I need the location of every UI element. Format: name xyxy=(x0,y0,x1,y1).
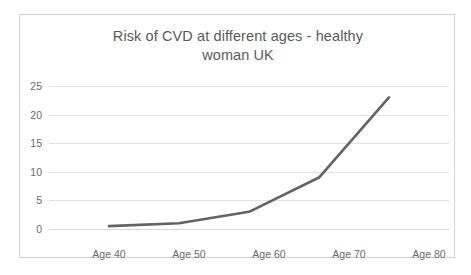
x-axis-tick-label: Age 50 xyxy=(172,248,205,260)
x-axis-tick-label: Age 70 xyxy=(332,248,365,260)
chart-title-line-2: woman UK xyxy=(202,47,274,63)
gridline-0: 0 xyxy=(49,229,449,230)
x-axis-tick-label: Age 60 xyxy=(252,248,285,260)
y-axis-tick-label: 0 xyxy=(36,223,42,235)
plot-area: 25 20 15 10 5 0 xyxy=(49,86,449,229)
x-axis: Age 40 Age 50 Age 60 Age 70 Age 80 xyxy=(49,248,449,264)
y-axis-tick-label: 20 xyxy=(30,109,42,121)
x-axis-tick-label: Age 80 xyxy=(412,248,445,260)
x-axis-tick-label: Age 40 xyxy=(92,248,125,260)
y-axis-tick-label: 10 xyxy=(30,166,42,178)
chart-container: Risk of CVD at different ages - healthy … xyxy=(19,14,455,258)
y-axis-tick-label: 15 xyxy=(30,137,42,149)
chart-title-line-1: Risk of CVD at different ages - healthy xyxy=(113,28,363,44)
data-series-line xyxy=(49,86,449,229)
y-axis-tick-label: 5 xyxy=(36,194,42,206)
y-axis-tick-label: 25 xyxy=(30,80,42,92)
chart-title: Risk of CVD at different ages - healthy … xyxy=(60,27,416,65)
